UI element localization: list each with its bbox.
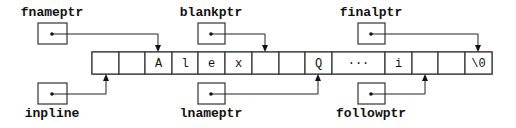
array-cell-value: \0 [471, 57, 485, 71]
arrowhead-up-icon [103, 74, 109, 81]
array-cell-value: e [208, 57, 215, 71]
pointer-label-blankptr: blankptr [180, 5, 242, 20]
array-cell: l [172, 52, 198, 74]
array-cell-value: i [395, 57, 402, 71]
array-cell [438, 52, 465, 74]
array-cell-value: A [155, 57, 163, 71]
array-cell-value: x [235, 57, 242, 71]
pointer-array-diagram: AlexQ···i\0 fnameptr blankptr finalptr i… [0, 0, 516, 128]
pointer-label-fnameptr: fnameptr [21, 5, 83, 20]
arrowhead-up-icon [422, 74, 428, 81]
array-cell [92, 52, 119, 74]
array-cell-border [119, 52, 145, 74]
array-cell [279, 52, 305, 74]
arrowhead-up-icon [315, 74, 321, 81]
pointer-label-lnameptr: lnameptr [180, 106, 242, 121]
array-cell: x [225, 52, 252, 74]
array-cell: Q [305, 52, 332, 74]
array-cell-value: ··· [348, 57, 370, 71]
array-cell-border [92, 52, 119, 74]
array-cell-border [279, 52, 305, 74]
pointer-fnameptr: fnameptr [21, 5, 161, 52]
array-cell [252, 52, 279, 74]
array-cell-border [438, 52, 465, 74]
pointer-arrow-finalptr [371, 34, 478, 45]
pointer-label-finalptr: finalptr [340, 5, 402, 20]
pointer-lnameptr: lnameptr [180, 74, 321, 121]
array-cell-border [412, 52, 438, 74]
array-cell: \0 [465, 52, 492, 74]
array-cell-value: l [181, 57, 188, 71]
pointer-blankptr: blankptr [180, 5, 268, 52]
pointer-arrow-fnameptr [52, 34, 158, 45]
array-cell-border [252, 52, 279, 74]
pointer-followptr: followptr [336, 74, 428, 121]
pointer-inpline: inpline [25, 74, 109, 121]
arrowhead-down-icon [475, 45, 481, 52]
pointer-label-inpline: inpline [25, 106, 80, 121]
pointer-arrow-lnameptr [211, 81, 318, 94]
array-cell: e [198, 52, 225, 74]
array-cell [119, 52, 145, 74]
array-cell [412, 52, 438, 74]
array-cell: A [145, 52, 172, 74]
arrowhead-down-icon [155, 45, 161, 52]
array-cell-value: Q [315, 57, 322, 71]
array-cell: i [385, 52, 412, 74]
char-array: AlexQ···i\0 [92, 52, 492, 74]
array-cell: ··· [332, 52, 385, 74]
pointer-finalptr: finalptr [340, 5, 481, 52]
arrowhead-down-icon [262, 45, 268, 52]
pointer-label-followptr: followptr [336, 106, 406, 121]
